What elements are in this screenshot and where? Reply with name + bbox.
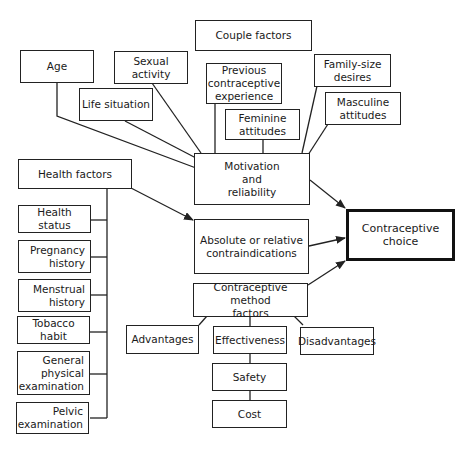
node-disadvantages: Disadvantages <box>300 327 374 355</box>
node-couple-factors: Couple factors <box>195 20 312 51</box>
node-age: Age <box>20 50 94 83</box>
node-previous-experience: Previous contraceptive experience <box>206 63 282 104</box>
node-contraindications: Absolute or relative contraindications <box>194 219 309 274</box>
node-feminine-attitudes: Feminine attitudes <box>225 109 300 140</box>
node-cost: Cost <box>212 400 287 428</box>
node-method-factors: Contraceptive method factors <box>193 283 308 317</box>
node-pelvic-examination: Pelvic examination <box>16 402 89 434</box>
node-family-size-desires: Family-size desires <box>314 54 391 87</box>
node-health-status: Health status <box>18 205 91 233</box>
node-health-factors: Health factors <box>18 159 132 189</box>
node-effectiveness: Effectiveness <box>213 326 287 354</box>
node-general-physical-examination: General physical examination <box>17 351 90 395</box>
node-sexual-activity: Sexual activity <box>114 51 188 84</box>
node-tobacco-habit: Tobacco habit <box>17 316 90 344</box>
node-pregnancy-history: Pregnancy history <box>18 240 91 273</box>
node-contraceptive-choice: Contraceptive choice <box>346 209 455 261</box>
node-safety: Safety <box>212 363 287 391</box>
contraceptive-choice-diagram: Couple factors Age Sexual activity Previ… <box>0 0 472 449</box>
node-life-situation: Life situation <box>79 88 153 121</box>
node-advantages: Advantages <box>126 325 199 354</box>
node-masculine-attitudes: Masculine attitudes <box>325 92 401 125</box>
node-menstrual-history: Menstrual history <box>18 279 91 312</box>
node-motivation-reliability: Motivation and reliability <box>194 153 310 205</box>
